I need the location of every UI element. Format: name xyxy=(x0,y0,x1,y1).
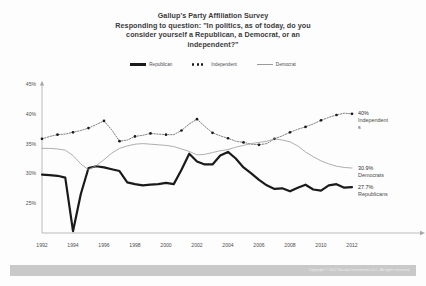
x-tick-2008: 2008 xyxy=(284,242,295,248)
series-marker-independent xyxy=(211,132,214,135)
series-marker-independent xyxy=(72,131,75,134)
chart-page: Gallup's Party Affiliation Survey Respon… xyxy=(0,0,426,286)
legend-label-democrat: Democrat xyxy=(276,62,296,67)
x-tick-1998: 1998 xyxy=(129,242,140,248)
series-marker-independent xyxy=(227,137,230,140)
y-tick-40%: 40% xyxy=(26,111,37,117)
title-line-3: consider yourself a Republican, a Democr… xyxy=(0,30,426,40)
x-tick-2000: 2000 xyxy=(160,242,171,248)
y-tick-25%: 25% xyxy=(26,200,37,206)
y-tick-35%: 35% xyxy=(26,141,37,147)
y-tick-30%: 30% xyxy=(26,170,37,176)
chart-title-block: Gallup's Party Affiliation Survey Respon… xyxy=(0,11,426,49)
x-tick-1994: 1994 xyxy=(67,242,78,248)
annotation-value-independent: 40% xyxy=(358,110,369,116)
line-chart-svg: 45%40%35%30%25% 199219941996199820002002… xyxy=(0,78,426,258)
x-tick-2004: 2004 xyxy=(222,242,233,248)
x-tick-2010: 2010 xyxy=(315,242,326,248)
y-tick-45%: 45% xyxy=(26,81,37,87)
legend-item-independent: Independent xyxy=(192,62,237,67)
chart-axes xyxy=(40,81,425,235)
series-marker-independent xyxy=(103,120,106,123)
series-marker-independent xyxy=(41,137,44,140)
series-marker-independent xyxy=(304,126,307,129)
series-marker-independent xyxy=(87,127,90,130)
series-marker-independent xyxy=(335,114,338,117)
series-line-republican xyxy=(42,152,352,231)
series-marker-independent xyxy=(56,133,59,136)
series-marker-independent xyxy=(118,140,121,143)
series-marker-independent xyxy=(165,133,168,136)
series-marker-independent xyxy=(134,135,137,138)
copyright-text: Copyright © 2012 Secular Investments LLC… xyxy=(309,268,410,272)
annotation-label-overflow: s xyxy=(358,124,361,130)
x-tick-1992: 1992 xyxy=(36,242,47,248)
series-marker-independent xyxy=(289,131,292,134)
annotation-label-democrats: Democrats xyxy=(358,172,384,178)
chart-annotations: 40%Independents30.9%Democrats27.7%Republ… xyxy=(358,110,388,196)
legend-item-republican: Republican xyxy=(130,62,172,67)
x-tick-1996: 1996 xyxy=(98,242,109,248)
title-line-4: independent?" xyxy=(0,40,426,50)
series-marker-independent xyxy=(242,141,245,144)
chart-plot-area: 45%40%35%30%25% 199219941996199820002002… xyxy=(0,78,426,258)
x-tick-2006: 2006 xyxy=(253,242,264,248)
x-axis-tick-labels: 1992199419961998200020022004200620082010… xyxy=(36,242,357,248)
series-marker-independent xyxy=(351,112,354,115)
annotation-value-democrats: 30.9% xyxy=(358,165,373,171)
legend-item-democrat: Democrat xyxy=(257,62,296,67)
title-line-2: Responding to question: "In politics, as… xyxy=(0,21,426,31)
series-marker-independent xyxy=(320,119,323,122)
y-axis-tick-labels: 45%40%35%30%25% xyxy=(26,81,37,206)
series-marker-independent xyxy=(196,118,199,121)
legend-label-republican: Republican xyxy=(149,62,172,67)
chart-legend: Republican Independent Democrat xyxy=(0,62,426,67)
series-marker-independent xyxy=(258,143,261,146)
footer-bar: Copyright © 2012 Secular Investments LLC… xyxy=(10,265,416,276)
legend-swatch-republican-icon xyxy=(130,63,146,65)
x-tick-2012: 2012 xyxy=(346,242,357,248)
annotation-label-independent: Independent xyxy=(358,117,388,123)
x-tick-2002: 2002 xyxy=(191,242,202,248)
legend-swatch-independent-icon xyxy=(192,63,208,66)
legend-label-independent: Independent xyxy=(211,62,237,67)
chart-series-layer xyxy=(41,112,354,231)
annotation-value-republicans: 27.7% xyxy=(358,184,373,190)
legend-swatch-democrat-icon xyxy=(257,64,273,65)
series-marker-independent xyxy=(180,129,183,132)
series-marker-independent xyxy=(149,132,152,135)
title-line-1: Gallup's Party Affiliation Survey xyxy=(0,11,426,21)
annotation-label-republicans: Republicans xyxy=(358,191,388,197)
series-line-democrat xyxy=(42,139,352,170)
